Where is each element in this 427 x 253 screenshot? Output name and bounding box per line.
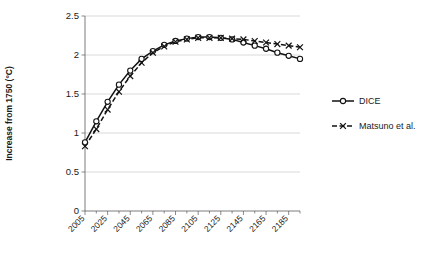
y-tick-label: 2.5 <box>66 10 79 21</box>
x-tick-label: 2105 <box>179 213 200 234</box>
data-point-marker <box>286 53 291 58</box>
data-point-marker <box>263 46 268 51</box>
data-point-marker <box>252 43 257 48</box>
legend-marker-circle <box>340 98 345 103</box>
data-point-marker <box>128 68 133 73</box>
legend-label-text: Matsuno et al. <box>359 121 416 131</box>
y-tick-label: 2 <box>74 49 79 60</box>
y-tick-label: 1.5 <box>66 88 79 99</box>
x-tick-label: 2165 <box>247 213 268 234</box>
x-tick-label: 2045 <box>111 213 132 234</box>
x-tick-label: 2145 <box>224 213 245 234</box>
y-tick-labels-group: 00.511.522.5 <box>66 10 79 216</box>
y-axis-title: Increase from 1750 (°C) <box>4 66 14 161</box>
x-tick-label: 2005 <box>66 213 87 234</box>
x-tick-labels-group: 2005202520452065208521052125214521652185 <box>66 213 290 234</box>
data-point-marker <box>297 56 302 61</box>
data-point-marker <box>93 126 99 132</box>
series-lines-group <box>85 37 300 146</box>
legend-label-text: DICE <box>359 96 381 106</box>
data-point-marker <box>275 50 280 55</box>
chart-legend: DICEMatsuno et al. <box>332 96 416 131</box>
data-point-marker <box>105 99 110 104</box>
data-point-marker <box>127 73 133 79</box>
x-tick-label: 2125 <box>202 213 223 234</box>
x-tick-label: 2185 <box>270 213 291 234</box>
series-markers-group <box>82 34 303 149</box>
chart-container: 00.511.522.5 200520252045206520852105212… <box>0 0 427 253</box>
y-tick-label: 0.5 <box>66 166 79 177</box>
x-tick-label: 2065 <box>134 213 155 234</box>
data-point-marker <box>94 119 99 124</box>
legend-item: DICE <box>332 96 381 106</box>
data-point-marker <box>116 82 121 87</box>
y-tick-label: 1 <box>74 127 79 138</box>
series-line-2 <box>85 38 300 146</box>
axes-group <box>85 16 300 211</box>
line-chart: 00.511.522.5 200520252045206520852105212… <box>0 0 427 253</box>
data-point-marker <box>105 107 111 113</box>
x-tick-label: 2025 <box>89 213 110 234</box>
x-tick-label: 2085 <box>156 213 177 234</box>
y-axis-title-text: Increase from 1750 (°C) <box>4 66 14 161</box>
legend-item: Matsuno et al. <box>332 121 416 131</box>
